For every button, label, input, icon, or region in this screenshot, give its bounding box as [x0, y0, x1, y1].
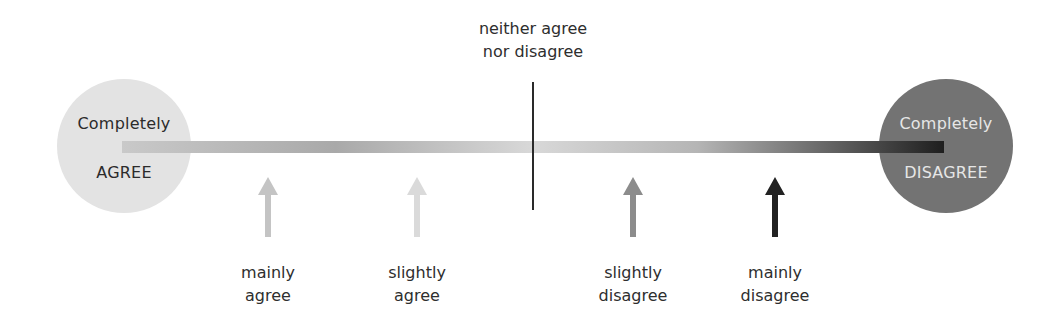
arrow-up-icon-mainly-agree — [256, 177, 280, 237]
point-label-line2: agree — [347, 284, 487, 307]
point-label-line1: slightly — [347, 261, 487, 284]
point-label-slightly-agree: slightly agree — [347, 261, 487, 307]
point-label-line1: slightly — [563, 261, 703, 284]
completely-agree-label-line2: AGREE — [44, 163, 204, 182]
arrow-up-icon-slightly-agree — [405, 177, 429, 237]
completely-disagree-label-line2: DISAGREE — [866, 163, 1026, 182]
completely-agree-label-line1: Completely — [44, 114, 204, 133]
arrow-up-icon-slightly-disagree — [621, 177, 645, 237]
neutral-divider-line — [532, 82, 534, 210]
neutral-label: neither agree nor disagree — [433, 17, 633, 63]
point-label-line1: mainly — [198, 261, 338, 284]
neutral-label-line1: neither agree — [433, 17, 633, 40]
point-label-line1: mainly — [705, 261, 845, 284]
neutral-label-line2: nor disagree — [433, 40, 633, 63]
completely-disagree-label-line1: Completely — [866, 114, 1026, 133]
point-label-mainly-agree: mainly agree — [198, 261, 338, 307]
arrow-up-icon-mainly-disagree — [763, 177, 787, 237]
point-label-mainly-disagree: mainly disagree — [705, 261, 845, 307]
point-label-line2: disagree — [563, 284, 703, 307]
point-label-line2: agree — [198, 284, 338, 307]
point-label-line2: disagree — [705, 284, 845, 307]
point-label-slightly-disagree: slightly disagree — [563, 261, 703, 307]
